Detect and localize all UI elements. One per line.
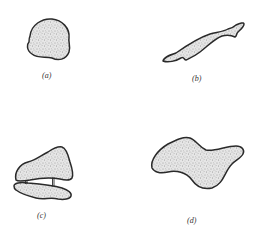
label-d: (d) [187, 216, 196, 225]
blob-b [163, 23, 244, 62]
label-b: (b) [192, 74, 201, 83]
blob-d [152, 137, 244, 188]
figure-canvas [0, 0, 254, 234]
blob-c-upper [16, 147, 73, 181]
label-c: (c) [37, 211, 46, 220]
blob-c-lower [14, 183, 71, 200]
blob-a [27, 19, 69, 60]
label-a: (a) [42, 71, 51, 80]
